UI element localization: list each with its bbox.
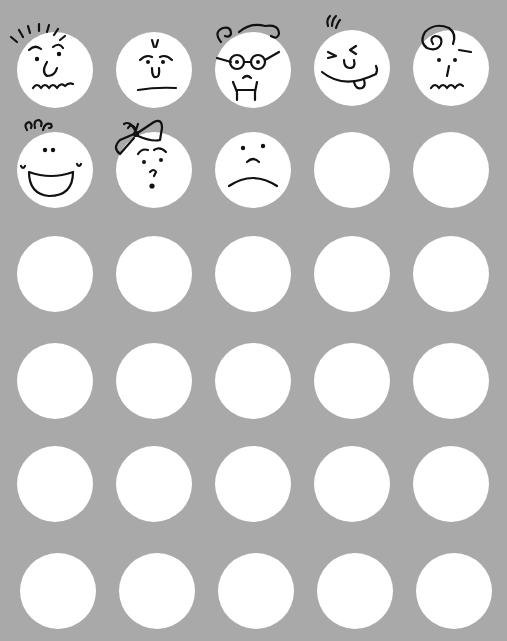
blank-circle: [17, 236, 93, 312]
blank-circle: [215, 236, 291, 312]
winking-tongue-out-face-icon: [314, 30, 390, 106]
baby-laughing-face-icon: [17, 132, 93, 208]
blank-circle: [314, 343, 390, 419]
blank-circle: [215, 343, 291, 419]
blank-circle: [413, 132, 489, 208]
blank-circle: [218, 553, 294, 629]
blank-circle: [17, 446, 93, 522]
blank-circle: [413, 343, 489, 419]
dizzy-swirl-face-icon: [413, 30, 489, 106]
bow-surprised-face-icon: [116, 132, 192, 208]
glasses-curly-hair-face-icon: [215, 32, 291, 108]
sad-frown-face-icon: [215, 132, 291, 208]
worried-flat-mouth-face-icon: [116, 32, 192, 108]
blank-circle: [413, 236, 489, 312]
spiky-hair-wavy-mouth-face-icon: [17, 32, 93, 108]
blank-circle: [116, 446, 192, 522]
blank-circle: [314, 446, 390, 522]
blank-circle: [215, 446, 291, 522]
blank-circle: [416, 553, 492, 629]
blank-circle: [17, 343, 93, 419]
blank-circle: [314, 132, 390, 208]
blank-circle: [413, 446, 489, 522]
blank-circle: [317, 553, 393, 629]
blank-circle: [116, 236, 192, 312]
blank-circle: [20, 553, 96, 629]
sticker-sheet: [0, 0, 507, 641]
blank-circle: [314, 236, 390, 312]
blank-circle: [119, 553, 195, 629]
blank-circle: [116, 343, 192, 419]
